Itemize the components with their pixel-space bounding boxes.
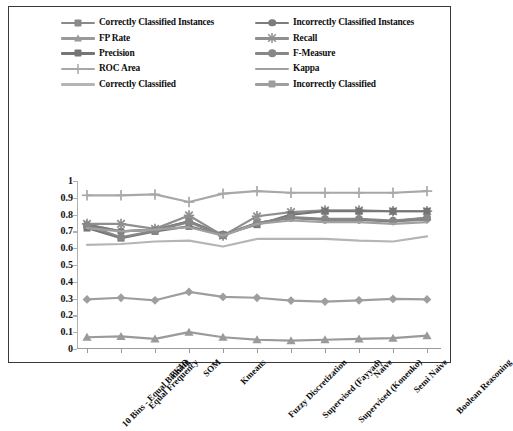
x-tick-label: Boolean Reasoning bbox=[454, 357, 513, 416]
y-tick-mark bbox=[73, 265, 77, 266]
plot-area: 10.90.80.70.60.50.40.30.20.10 10 Bins - … bbox=[9, 93, 452, 363]
legend-item-recall[interactable]: Recall bbox=[255, 30, 441, 45]
chart-axes bbox=[77, 181, 441, 349]
y-tick-label: 0.1 bbox=[61, 327, 74, 337]
legend-swatch-diamond-icon bbox=[61, 17, 95, 29]
chart-figure: Correctly Classified InstancesIncorrectl… bbox=[8, 6, 451, 363]
y-tick-mark bbox=[73, 215, 77, 216]
x-tick-label: Kmeans bbox=[238, 357, 267, 386]
legend-item-roc-area[interactable]: ROC Area bbox=[61, 61, 247, 76]
legend-item-correctly-classified[interactable]: Correctly Classified bbox=[61, 77, 247, 92]
series-layer bbox=[77, 181, 441, 349]
legend-swatch-square-icon bbox=[61, 47, 95, 59]
legend-swatch-none-icon bbox=[61, 78, 95, 90]
y-tick-mark bbox=[73, 332, 77, 333]
y-tick-mark bbox=[73, 282, 77, 283]
legend-item-label: Correctly Classified Instances bbox=[99, 17, 214, 28]
y-tick-label: 0.2 bbox=[61, 310, 74, 320]
y-tick-mark bbox=[73, 349, 77, 350]
legend-item-label: Incorrectly Classified Instances bbox=[293, 17, 414, 28]
x-axis-tick-labels: 10 Bins - Equal BinningEqual FrequencyPK… bbox=[9, 351, 452, 431]
legend-item-f-measure[interactable]: F-Measure bbox=[255, 46, 441, 61]
legend-item-fp-rate[interactable]: FP Rate bbox=[61, 30, 247, 45]
y-tick-label: 0.4 bbox=[61, 277, 74, 287]
y-tick-mark bbox=[73, 231, 77, 232]
chart-legend: Correctly Classified InstancesIncorrectl… bbox=[61, 15, 441, 93]
legend-item-label: Kappa bbox=[293, 63, 319, 74]
legend-item-incorrectly-classified-instances[interactable]: Incorrectly Classified Instances bbox=[255, 15, 441, 30]
legend-item-label: Incorrectly Classified bbox=[293, 79, 376, 90]
legend-swatch-triangle-icon bbox=[61, 32, 95, 44]
legend-item-kappa[interactable]: Kappa bbox=[255, 61, 441, 76]
y-tick-label: 0.8 bbox=[61, 210, 74, 220]
legend-item-label: Precision bbox=[99, 48, 134, 59]
y-tick-label: 0.6 bbox=[61, 243, 74, 253]
y-tick-label: 0.5 bbox=[61, 260, 74, 270]
x-tick-label: SOM bbox=[201, 357, 223, 379]
legend-swatch-none-icon bbox=[255, 63, 289, 75]
legend-item-precision[interactable]: Precision bbox=[61, 46, 247, 61]
legend-item-label: Correctly Classified bbox=[99, 79, 176, 90]
legend-swatch-circle-icon bbox=[255, 47, 289, 59]
legend-swatch-plus-icon bbox=[61, 63, 95, 75]
legend-swatch-circle-icon bbox=[255, 17, 289, 29]
series-fp-rate bbox=[82, 328, 431, 344]
y-tick-mark bbox=[73, 181, 77, 182]
legend-item-correctly-classified-instances[interactable]: Correctly Classified Instances bbox=[61, 15, 247, 30]
y-tick-mark bbox=[73, 248, 77, 249]
x-tick-label: Equal Frequency bbox=[146, 357, 200, 411]
series-correctly-classified bbox=[87, 236, 427, 246]
y-tick-mark bbox=[73, 198, 77, 199]
y-tick-mark bbox=[73, 315, 77, 316]
y-tick-label: 0.7 bbox=[61, 226, 74, 236]
y-tick-mark bbox=[73, 299, 77, 300]
legend-item-label: FP Rate bbox=[99, 33, 130, 44]
x-tick-label: Fuzzy Discretization bbox=[286, 357, 349, 420]
legend-item-label: ROC Area bbox=[99, 63, 140, 74]
y-axis-tick-labels: 10.90.80.70.60.50.40.30.20.10 bbox=[39, 181, 73, 349]
legend-item-incorrectly-classified[interactable]: Incorrectly Classified bbox=[255, 77, 441, 92]
legend-swatch-star-icon bbox=[255, 32, 289, 44]
legend-item-label: F-Measure bbox=[293, 48, 335, 59]
y-tick-label: 0.3 bbox=[61, 294, 74, 304]
y-tick-label: 0.9 bbox=[61, 193, 74, 203]
legend-swatch-diamond-icon bbox=[255, 78, 289, 90]
legend-item-label: Recall bbox=[293, 33, 317, 44]
series-roc-area bbox=[82, 186, 432, 207]
series-incorrectly-classified bbox=[83, 287, 432, 306]
